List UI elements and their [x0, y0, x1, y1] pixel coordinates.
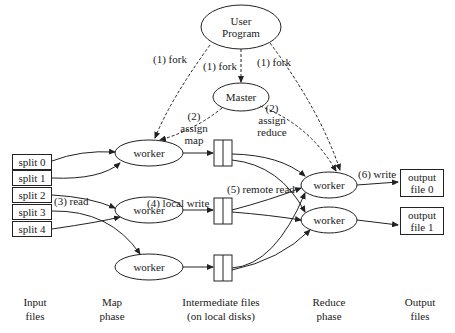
edge-label-assign-reduce: (2) assign reduce	[250, 102, 294, 138]
phase-label-output: Outputfiles	[365, 295, 455, 323]
user-program-label: User Program	[216, 15, 266, 39]
edge-label-fork-center: (1) fork	[203, 60, 237, 72]
map-worker-label-2: worker	[119, 261, 179, 273]
output-file-0: outputfile 0	[400, 169, 444, 197]
output-file-1: outputfile 1	[400, 207, 444, 235]
input-split-4: split 4	[12, 221, 52, 237]
input-split-2: split 2	[12, 187, 52, 203]
reduce-worker-label-1: worker	[301, 214, 357, 226]
reduce-worker-label-0: worker	[301, 179, 357, 191]
diagram-canvas	[0, 0, 455, 333]
edge-label-remote-read: (5) remote read	[227, 183, 295, 195]
input-split-0: split 0	[12, 154, 52, 170]
intermediate-file-0	[214, 140, 232, 166]
edge-label-write: (6) write	[358, 168, 396, 180]
phase-label-map: Mapphase	[57, 295, 167, 323]
intermediate-file-1	[214, 198, 232, 224]
edge-label-fork-right: (1) fork	[257, 56, 291, 68]
local-write-label: (4) local write	[147, 197, 209, 209]
phase-label-intermediate: Intermediate files(on local disks)	[166, 295, 276, 323]
edge-label-read: (3) read	[54, 195, 89, 207]
input-split-1: split 1	[12, 170, 52, 186]
edge-label-fork-left: (1) fork	[153, 53, 187, 65]
map-worker-label-0: worker	[119, 147, 179, 159]
edge-label-assign-map: (2) assign map	[174, 110, 214, 146]
intermediate-file-2	[214, 255, 232, 281]
input-split-3: split 3	[12, 204, 52, 220]
